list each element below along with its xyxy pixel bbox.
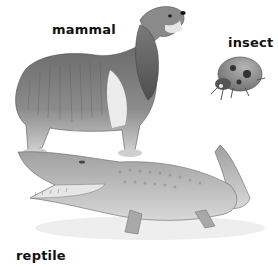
mammal-label: mammal bbox=[52, 22, 116, 37]
ladybug-illustration bbox=[205, 52, 270, 112]
reptile-label: reptile bbox=[16, 248, 66, 263]
insect-label: insect bbox=[228, 35, 273, 50]
crocodile-illustration bbox=[10, 140, 275, 245]
